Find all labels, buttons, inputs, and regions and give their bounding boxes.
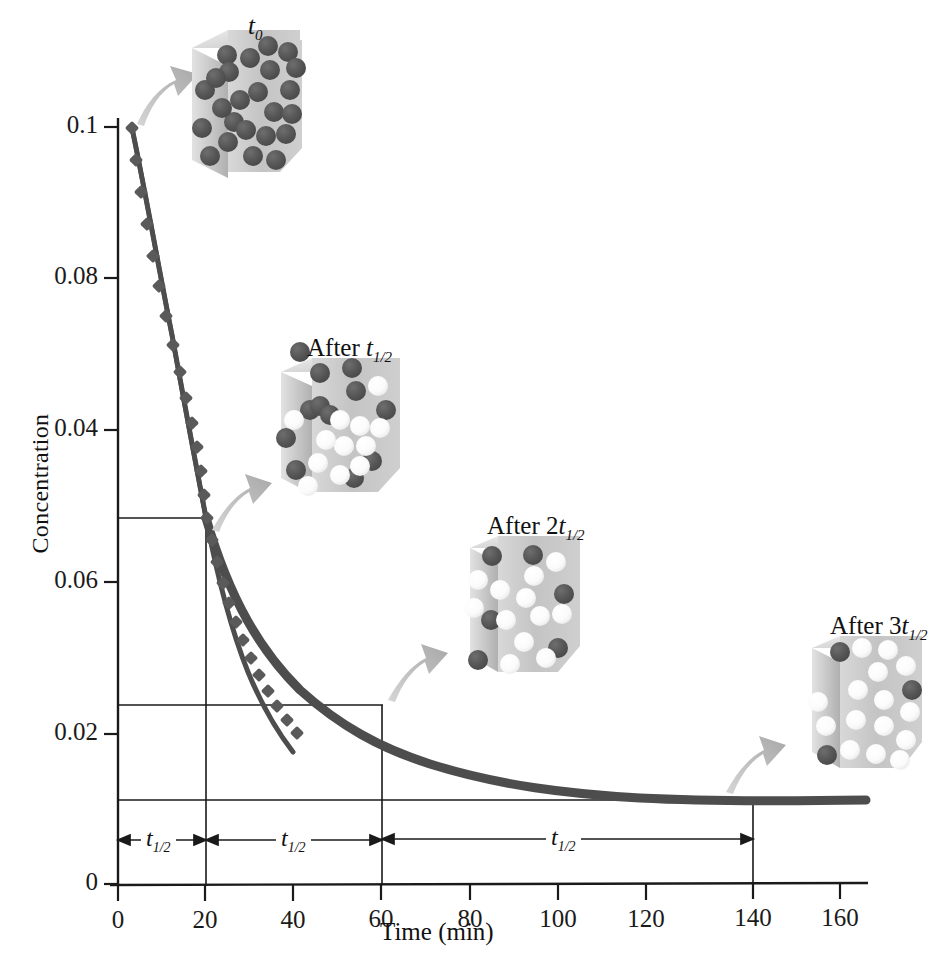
cube-caption-subscript-4: 1/2	[908, 627, 927, 643]
half-life-guide-lines	[118, 518, 755, 886]
cube-caption-after-t-half: After t1/2	[307, 334, 392, 366]
half-life-subscript-2: 1/2	[288, 840, 306, 855]
axis-lines	[110, 118, 868, 886]
y-axis-title: Concentration	[27, 384, 54, 584]
connector-arrow-4	[726, 736, 786, 794]
connector-arrow-2	[212, 474, 272, 532]
figure-canvas: 0 0.02 0.04 0.06 0.08 0.1 0 20 40 60 80 …	[0, 0, 952, 962]
cube-caption-after-2t-half: After 2t1/2	[487, 512, 585, 544]
y-axis-ticks	[104, 127, 118, 884]
y-tick-label-0_08: 0.08	[14, 262, 98, 290]
cube-caption-symbol-1: t	[248, 12, 255, 39]
half-life-subscript-1: 1/2	[153, 840, 171, 855]
cube-caption-prefix-2: After	[307, 334, 366, 361]
half-life-label-3: t1/2	[546, 824, 581, 855]
x-tick-label-20: 20	[185, 906, 225, 934]
cube-caption-after-3t-half: After 3t1/2	[830, 612, 928, 644]
connector-arrow-3	[388, 644, 448, 702]
cube-caption-t0: t0	[248, 12, 262, 44]
cube-caption-subscript-2: 1/2	[373, 349, 392, 365]
half-life-symbol-1: t	[146, 825, 153, 851]
x-tick-label-0: 0	[98, 906, 138, 934]
half-life-label-1: t1/2	[141, 825, 176, 856]
cube-caption-prefix-3: After 2	[487, 512, 559, 539]
half-life-subscript-3: 1/2	[558, 839, 576, 854]
cube-t0	[192, 30, 306, 178]
cube-caption-symbol-2: t	[366, 334, 373, 361]
kinetics-plot	[0, 0, 952, 962]
curve-upper-thick-overlay	[132, 128, 206, 518]
x-tick-label-140: 140	[727, 904, 779, 932]
x-axis-title: Time (min)	[380, 918, 494, 946]
cube-after-3t-half	[808, 636, 922, 770]
x-tick-label-40: 40	[273, 906, 313, 934]
cube-caption-prefix-4: After 3	[830, 612, 902, 639]
x-tick-label-160: 160	[814, 904, 866, 932]
connector-arrow-1	[137, 66, 198, 126]
cube-after-2t-half	[464, 536, 580, 674]
connector-arrows	[137, 66, 786, 794]
x-tick-label-120: 120	[620, 905, 672, 933]
half-life-arrows	[118, 834, 753, 845]
half-life-label-2: t1/2	[276, 825, 311, 856]
half-life-symbol-2: t	[281, 825, 288, 851]
cube-caption-subscript-1: 0	[255, 27, 263, 43]
decay-curve	[132, 128, 866, 801]
curve-path	[132, 128, 866, 800]
y-tick-label-0_02: 0.02	[14, 718, 98, 746]
y-tick-label-0: 0	[28, 868, 98, 896]
y-tick-label-0_1: 0.1	[28, 111, 98, 139]
curve-markers	[125, 121, 304, 740]
half-life-symbol-3: t	[551, 824, 558, 850]
cube-caption-subscript-3: 1/2	[565, 527, 584, 543]
x-tick-label-100: 100	[532, 905, 584, 933]
